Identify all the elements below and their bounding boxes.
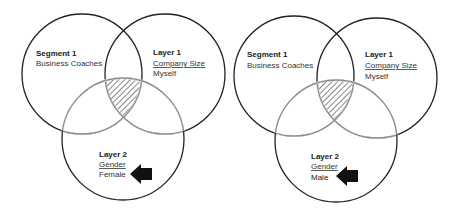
layer1-value: Myself	[365, 72, 389, 81]
layer2-attribute: Gender	[99, 160, 126, 169]
segment-title: Segment 1	[36, 49, 77, 58]
layer2-title: Layer 2	[311, 152, 340, 161]
segment-value: Business Coaches	[247, 61, 313, 70]
left-arrow-icon	[336, 166, 358, 186]
layer1-title: Layer 1	[153, 48, 182, 57]
layer2-attribute: Gender	[311, 162, 338, 171]
layer2-value: Female	[99, 170, 126, 179]
layer2-title: Layer 2	[99, 150, 128, 159]
layer1-title: Layer 1	[365, 50, 394, 59]
layer1-attribute: Company Size	[153, 59, 206, 68]
venn-diagram-male: Segment 1 Business Coaches Layer 1 Compa…	[234, 16, 437, 202]
venn-diagrams: Segment 1 Business Coaches Layer 1 Compa…	[0, 0, 460, 217]
layer1-attribute: Company Size	[365, 61, 418, 70]
left-arrow-icon	[130, 164, 152, 184]
venn-diagram-female: Segment 1 Business Coaches Layer 1 Compa…	[22, 14, 225, 200]
layer2-value: Male	[311, 173, 329, 182]
layer1-value: Myself	[153, 69, 177, 78]
segment-title: Segment 1	[247, 50, 288, 59]
segment-value: Business Coaches	[36, 59, 102, 68]
